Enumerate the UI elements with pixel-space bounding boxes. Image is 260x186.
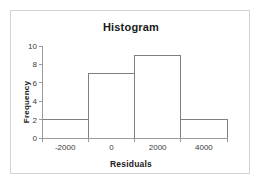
y-axis-label: Frequency [22,56,31,148]
chart-title: Histogram [11,21,251,33]
y-tick-label: 0 [33,134,37,143]
y-tick-label: 2 [33,115,37,124]
bars-group [42,55,227,138]
histogram-svg [42,46,227,138]
x-tick-label: 4000 [195,143,213,152]
x-tick-label: -2000 [55,143,75,152]
plot-area: 0246810 -2000020004000 [42,46,227,138]
x-tick-label: 2000 [149,143,167,152]
x-axis-label: Residuals [11,159,251,169]
chart-frame: Histogram Frequency 0246810 -20000200040… [10,10,250,174]
y-tick-label: 10 [28,42,37,51]
histogram-bar [42,120,88,138]
y-tick-label: 4 [33,97,37,106]
x-tick-label: 0 [109,143,113,152]
histogram-bar [88,74,134,138]
histogram-bar [135,55,181,138]
y-tick-label: 8 [33,60,37,69]
histogram-bar [181,120,227,138]
y-tick-label: 6 [33,78,37,87]
